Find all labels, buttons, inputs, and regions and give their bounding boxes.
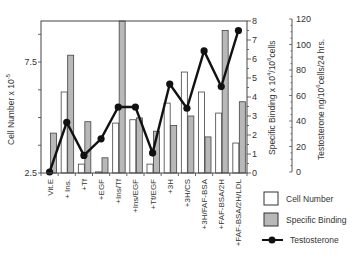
testosterone-point bbox=[132, 103, 139, 110]
category-label: +3H/FAF-BSA bbox=[200, 178, 209, 229]
third-axis-title: Testosterone ng/106cells/24 hrs. bbox=[315, 39, 326, 160]
right-tick-label: 0 bbox=[252, 168, 257, 178]
right-tick-label: 2 bbox=[252, 130, 257, 140]
right-tick-label: 6 bbox=[252, 54, 257, 64]
third-axis-tick-label: 40 bbox=[296, 116, 306, 126]
bar-specific-binding bbox=[188, 116, 194, 173]
bar-specific-binding bbox=[119, 21, 125, 173]
testosterone-point bbox=[235, 27, 242, 34]
left-tick-label: 7.5 bbox=[24, 57, 37, 67]
right-tick-label: 7 bbox=[252, 35, 257, 45]
left-axis-title: Cell Number x 10-5 bbox=[5, 73, 16, 145]
category-label: +3H bbox=[166, 179, 175, 194]
bar-cell-number bbox=[181, 72, 187, 173]
legend-item-cell-number: Cell Number bbox=[264, 192, 333, 205]
right-axis-title: Specific Binding x 104/106cells bbox=[266, 41, 277, 155]
bar-specific-binding bbox=[85, 122, 91, 173]
chart: 2.57.5 012345678 020406080100120 Vit.E+ … bbox=[0, 0, 361, 267]
right-tick-label: 5 bbox=[252, 73, 257, 83]
legend-marker-icon bbox=[269, 237, 276, 244]
bar-cell-number bbox=[233, 143, 239, 173]
bar-specific-binding bbox=[102, 158, 108, 173]
bar-specific-binding bbox=[222, 31, 228, 174]
category-label: +FAF-BSA/2H bbox=[217, 179, 226, 230]
third-axis-tick-label: 60 bbox=[296, 91, 306, 101]
legend-item-specific-binding: Specific Binding bbox=[264, 213, 347, 226]
left-tick-label: 2.5 bbox=[24, 168, 37, 178]
category-label: +EGF bbox=[97, 179, 106, 200]
testosterone-point bbox=[46, 168, 53, 175]
category-label: +Ins/Tf bbox=[114, 178, 123, 203]
legend-label: Specific Binding bbox=[286, 215, 347, 225]
bar-specific-binding bbox=[205, 137, 211, 173]
testosterone-line-group bbox=[46, 27, 242, 176]
bar-cell-number bbox=[130, 120, 136, 173]
third-axis-tick-label: 0 bbox=[296, 167, 301, 177]
bar-cell-number bbox=[199, 92, 205, 173]
third-axis-tick-label: 120 bbox=[296, 14, 311, 24]
testosterone-point bbox=[115, 103, 122, 110]
testosterone-point bbox=[200, 47, 207, 54]
third-axis-tick-label: 80 bbox=[296, 65, 306, 75]
x-axis: Vit.E+ Ins.+Tf+EGF+Ins/Tf+Ins/EGF+Tf/EGF… bbox=[41, 173, 247, 246]
right-tick-label: 8 bbox=[252, 16, 257, 26]
category-label: +FAF-BSA/2H/LDL bbox=[234, 178, 243, 246]
category-label: +Tf bbox=[80, 178, 89, 191]
bar-cell-number bbox=[147, 164, 153, 173]
category-label: + Ins. bbox=[63, 179, 72, 199]
bar-specific-binding bbox=[171, 126, 177, 174]
third-axis-tick-label: 100 bbox=[296, 40, 311, 50]
category-label: +Ins/EGF bbox=[131, 179, 140, 213]
third-axis-tick-label: 20 bbox=[296, 142, 306, 152]
bar-series-group bbox=[51, 21, 246, 173]
testosterone-point bbox=[63, 119, 70, 126]
testosterone-point bbox=[218, 83, 225, 90]
testosterone-point bbox=[166, 80, 173, 87]
bar-cell-number bbox=[216, 113, 222, 173]
left-axis: 2.57.5 bbox=[24, 34, 41, 178]
right-tick-label: 4 bbox=[252, 92, 257, 102]
bar-specific-binding bbox=[68, 55, 74, 173]
category-label: +Tf/EGF bbox=[149, 179, 158, 210]
testosterone-point bbox=[149, 149, 156, 156]
category-label: Vit.E bbox=[46, 179, 55, 196]
legend-label: Cell Number bbox=[286, 194, 333, 204]
testosterone-point bbox=[97, 135, 104, 142]
legend-swatch-white bbox=[264, 192, 278, 205]
legend-swatch-gray bbox=[264, 213, 278, 226]
bar-cell-number bbox=[164, 103, 170, 173]
bar-cell-number bbox=[113, 123, 119, 173]
legend-item-testosterone: Testosterone bbox=[262, 235, 339, 245]
testosterone-point bbox=[183, 105, 190, 112]
bar-cell-number bbox=[78, 164, 84, 173]
right-axis-specific-binding: 012345678 bbox=[247, 16, 257, 178]
legend-label: Testosterone bbox=[290, 235, 339, 245]
legend: Cell Number Specific Binding Testosteron… bbox=[262, 192, 347, 245]
right-axis-testosterone: 020406080100120 bbox=[289, 14, 311, 177]
category-label: +3H/CS bbox=[183, 179, 192, 207]
bar-specific-binding bbox=[239, 102, 245, 173]
right-tick-label: 1 bbox=[252, 149, 257, 159]
right-tick-label: 3 bbox=[252, 111, 257, 121]
testosterone-point bbox=[80, 152, 87, 159]
